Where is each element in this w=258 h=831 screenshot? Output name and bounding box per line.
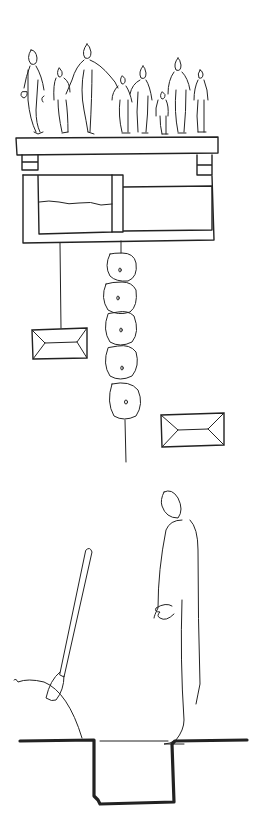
platform-structure <box>16 137 218 243</box>
shovel <box>46 548 92 700</box>
crowd-figures <box>21 44 208 134</box>
standing-figure <box>154 491 200 744</box>
right-weight <box>161 413 224 447</box>
stacked-stones <box>103 253 140 419</box>
hanging-strings <box>60 241 126 462</box>
sketch-canvas: Hand-drawn sketch <box>0 0 258 831</box>
earth-mound <box>14 679 82 738</box>
ground-and-pit <box>20 740 247 804</box>
sketch-svg <box>0 0 258 831</box>
left-weight <box>32 328 87 359</box>
